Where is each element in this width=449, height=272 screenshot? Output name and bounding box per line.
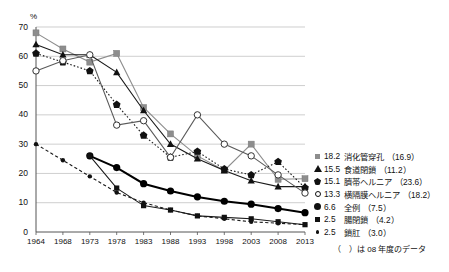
black-diamond-icon bbox=[311, 178, 324, 185]
legend-label: 横隔膜ヘルニア bbox=[344, 188, 400, 200]
legend-value: 18.2 bbox=[324, 151, 344, 161]
series-black-diamond bbox=[32, 49, 309, 191]
legend-paren-value: （16.9） bbox=[384, 150, 419, 162]
legend-item[interactable]: 13.3横隔膜ヘルニア（18.2） bbox=[311, 188, 447, 201]
y-tick-label: 40 bbox=[6, 109, 28, 119]
y-tick-label: 70 bbox=[6, 22, 28, 32]
legend-value: 13.3 bbox=[324, 189, 344, 199]
legend-item[interactable]: 15.1臍帯ヘルニア（23.6） bbox=[311, 175, 447, 188]
legend-item[interactable]: 6.6全例（7.5） bbox=[311, 200, 447, 213]
filled-circle-icon bbox=[311, 203, 324, 210]
x-tick-label: 1998 bbox=[209, 237, 239, 246]
legend-value: 6.6 bbox=[324, 202, 344, 212]
chart-figure: % 010203040506070 1964196819731978198319… bbox=[0, 0, 449, 272]
gray-square-icon bbox=[311, 154, 324, 159]
series-open-circle bbox=[33, 52, 308, 197]
legend-label: 鎖肛 bbox=[344, 226, 360, 238]
legend-value: 15.5 bbox=[324, 164, 344, 174]
x-tick-label: 2013 bbox=[290, 237, 320, 246]
x-tick-label: 1978 bbox=[102, 237, 132, 246]
series-layer bbox=[32, 30, 309, 227]
x-tick-label: 1973 bbox=[75, 237, 105, 246]
open-circle-icon bbox=[311, 191, 324, 197]
x-tick-label: 2003 bbox=[236, 237, 266, 246]
x-tick-label: 1983 bbox=[129, 237, 159, 246]
legend-item[interactable]: 2.5腸閉鎖（4.2） bbox=[311, 213, 447, 226]
legend-label: 全例 bbox=[344, 201, 360, 213]
x-tick-label: 1964 bbox=[21, 237, 51, 246]
footnote: （ ）は 08 年度のデータ bbox=[333, 243, 426, 254]
legend-value: 2.5 bbox=[324, 214, 344, 224]
legend-paren-value: （23.6） bbox=[392, 175, 427, 187]
legend-paren-value: （18.2） bbox=[400, 188, 435, 200]
y-axis-unit-label: % bbox=[30, 12, 37, 21]
legend-label: 臍帯ヘルニア bbox=[344, 175, 392, 187]
legend-item[interactable]: 15.5食道閉鎖（11.2） bbox=[311, 163, 447, 176]
small-dot-icon bbox=[311, 230, 324, 234]
legend-paren-value: （3.0） bbox=[360, 226, 391, 238]
legend: 18.2消化管穿孔（16.9）15.5食道閉鎖（11.2）15.1臍帯ヘルニア（… bbox=[311, 150, 447, 238]
legend-item[interactable]: 18.2消化管穿孔（16.9） bbox=[311, 150, 447, 163]
y-tick-label: 10 bbox=[6, 197, 28, 207]
legend-paren-value: （4.2） bbox=[368, 213, 399, 225]
y-tick-label: 30 bbox=[6, 139, 28, 149]
legend-value: 15.1 bbox=[324, 176, 344, 186]
legend-paren-value: （7.5） bbox=[360, 201, 391, 213]
legend-value: 2.5 bbox=[324, 227, 344, 237]
legend-label: 腸閉鎖 bbox=[344, 213, 368, 225]
x-tick-label: 1968 bbox=[48, 237, 78, 246]
y-tick-label: 0 bbox=[6, 227, 28, 237]
y-tick-label: 60 bbox=[6, 51, 28, 61]
x-tick-label: 2008 bbox=[263, 237, 293, 246]
small-square-icon bbox=[311, 217, 324, 222]
legend-item[interactable]: 2.5鎖肛（3.0） bbox=[311, 226, 447, 239]
y-tick-label: 50 bbox=[6, 80, 28, 90]
legend-paren-value: （11.2） bbox=[376, 163, 411, 175]
y-tick-label: 20 bbox=[6, 168, 28, 178]
legend-label: 消化管穿孔 bbox=[344, 150, 384, 162]
x-tick-label: 1988 bbox=[156, 237, 186, 246]
legend-label: 食道閉鎖 bbox=[344, 163, 376, 175]
x-tick-label: 1993 bbox=[182, 237, 212, 246]
black-triangle-icon bbox=[311, 165, 324, 172]
